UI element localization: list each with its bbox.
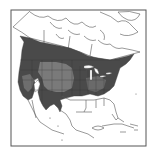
- range-map: [0, 0, 157, 157]
- north-america-map-svg: [0, 0, 157, 157]
